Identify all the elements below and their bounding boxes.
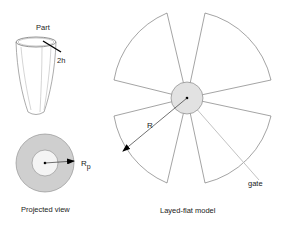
sector-bottom-left <box>114 98 187 183</box>
rp-label: Rp <box>81 159 91 171</box>
caption-layed-flat-model: Layed-flat model <box>160 206 216 215</box>
thickness-label: 2h <box>57 56 65 65</box>
part-cup-illustration <box>16 37 61 115</box>
sector-bottom-right <box>187 98 271 183</box>
projected-view <box>16 134 74 192</box>
caption-projected-view: Projected view <box>21 205 70 214</box>
sector-top-right <box>187 13 271 98</box>
diagram-canvas: Part 2h Rp Projected view R gate Layed-f… <box>0 0 286 227</box>
part-label: Part <box>36 23 51 32</box>
sector-top-left <box>114 13 187 98</box>
r-label: R <box>147 121 153 130</box>
gate-label: gate <box>248 179 263 188</box>
